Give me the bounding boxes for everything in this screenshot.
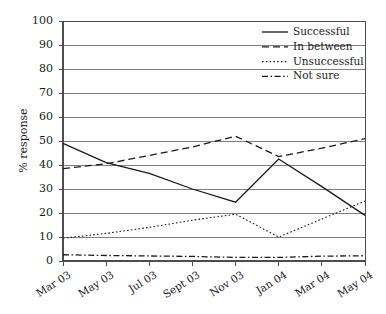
legend-label: Not sure	[293, 70, 339, 81]
series-lines	[63, 136, 365, 257]
legend-label: Unsuccessful	[293, 56, 364, 67]
y-tick-label: 50	[23, 135, 53, 146]
y-tick-label: 40	[23, 159, 53, 170]
legend-label: Successful	[293, 26, 350, 37]
y-tick-label: 0	[23, 255, 53, 266]
y-tick-label: 90	[23, 39, 53, 50]
y-tick-label: 60	[23, 111, 53, 122]
y-tick-label: 80	[23, 63, 53, 74]
y-tick-label: 30	[23, 183, 53, 194]
line-chart: % response 0102030405060708090100 Mar 03…	[0, 0, 386, 314]
y-tick-label: 100	[23, 15, 53, 26]
gridlines	[63, 21, 365, 237]
y-tick-label: 20	[23, 207, 53, 218]
series-line	[63, 143, 365, 215]
y-tick-label: 10	[23, 231, 53, 242]
series-line	[63, 201, 365, 238]
y-tick-label: 70	[23, 87, 53, 98]
legend-swatches	[262, 32, 288, 76]
series-line	[63, 255, 365, 258]
x-tick-marks	[63, 261, 365, 266]
legend-label: In between	[293, 41, 353, 52]
